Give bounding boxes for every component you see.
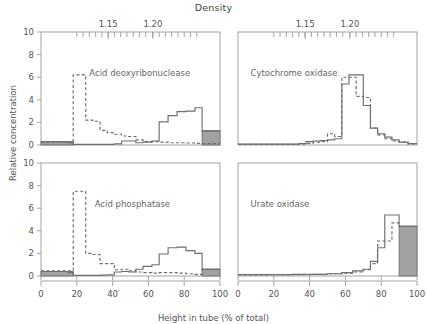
panel-label-acid-phosphatase: Acid phosphatase (95, 199, 170, 209)
y-tick-label: 0 (29, 271, 34, 281)
y-tick-label: 10 (23, 158, 34, 168)
panel-label-acid-deoxyribonuclease: Acid deoxyribonuclease (89, 68, 190, 78)
y-tick-label: 4 (29, 226, 34, 236)
x-tick-label: 0 (38, 289, 43, 299)
x-tick-label: 80 (179, 289, 190, 299)
x-tick-label: 80 (376, 289, 387, 299)
y-tick-label: 8 (29, 50, 34, 60)
y-tick-label: 6 (29, 72, 34, 82)
x-tick-label: 100 (212, 289, 228, 299)
y-tick-label: 10 (23, 27, 34, 37)
panel-frame-acid-phosphatase (41, 163, 220, 276)
y-tick-label: 4 (29, 95, 34, 105)
x-tick-label: 100 (409, 289, 425, 299)
panel-frame-acid-deoxyribonuclease (41, 32, 220, 145)
series-dashed-acid-deoxyribonuclease (41, 75, 220, 144)
series-dashed-urate-oxidase (238, 223, 417, 275)
y-tick-label: 2 (29, 117, 34, 127)
y-tick-label: 0 (29, 140, 34, 150)
x-tick-label: 20 (71, 289, 82, 299)
figure-root: Density Height in tube (% of total) Rela… (0, 0, 427, 324)
panel-frame-urate-oxidase (238, 163, 417, 276)
density-tick-label: 1.15 (296, 19, 315, 29)
plot-canvas: Acid deoxyribonuclease02468101.151.20Cyt… (0, 0, 427, 324)
density-tick-label: 1.15 (99, 19, 118, 29)
panel-frame-cytochrome-oxidase (238, 32, 417, 145)
x-tick-label: 0 (235, 289, 240, 299)
series-solid-urate-oxidase (238, 215, 417, 275)
panel-label-urate-oxidase: Urate oxidase (251, 199, 310, 209)
x-tick-label: 60 (143, 289, 154, 299)
x-tick-label: 60 (340, 289, 351, 299)
shaded-region-urate-oxidase (399, 226, 417, 276)
x-tick-label: 20 (268, 289, 279, 299)
y-tick-label: 6 (29, 203, 34, 213)
density-tick-label: 1.20 (143, 19, 162, 29)
series-solid-acid-deoxyribonuclease (41, 108, 220, 145)
x-tick-label: 40 (304, 289, 315, 299)
panel-label-cytochrome-oxidase: Cytochrome oxidase (251, 68, 338, 78)
x-tick-label: 40 (107, 289, 118, 299)
shaded-region-acid-deoxyribonuclease (202, 131, 220, 145)
density-tick-label: 1.20 (340, 19, 359, 29)
y-tick-label: 8 (29, 181, 34, 191)
y-tick-label: 2 (29, 248, 34, 258)
shaded-region-acid-phosphatase (202, 269, 220, 276)
series-dashed-cytochrome-oxidase (238, 77, 417, 144)
